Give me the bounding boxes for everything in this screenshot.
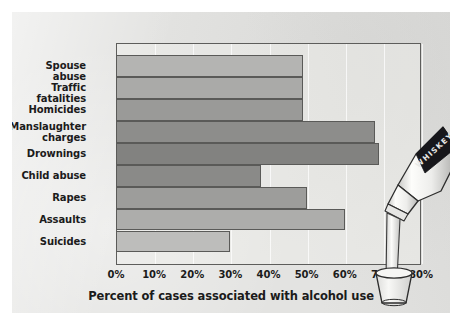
category-label: Assaults — [39, 214, 86, 225]
category-label: Homicides — [29, 104, 86, 115]
chart-figure: Spouse abuseTraffic fatalitiesHomicidesM… — [12, 12, 450, 313]
bar — [116, 165, 261, 187]
x-tick-label: 70% — [371, 269, 395, 280]
x-tick-label: 20% — [180, 269, 204, 280]
x-tick-label: 80% — [409, 269, 433, 280]
x-tick-label: 60% — [333, 269, 357, 280]
category-label: Rapes — [52, 192, 86, 203]
x-tick-label: 10% — [142, 269, 166, 280]
bar — [116, 143, 379, 165]
bar — [116, 209, 345, 231]
category-label: Traffic fatalities — [12, 82, 86, 104]
bars-group — [116, 43, 421, 265]
category-label: Suicides — [40, 236, 86, 247]
x-tick-label: 0% — [108, 269, 125, 280]
x-axis-title: Percent of cases associated with alcohol… — [12, 289, 450, 303]
bar — [116, 187, 307, 209]
category-label: Drownings — [27, 148, 86, 159]
category-label: Spouse abuse — [12, 60, 86, 82]
category-label: Child abuse — [21, 170, 86, 181]
x-tick-label: 50% — [295, 269, 319, 280]
bar — [116, 121, 375, 143]
bar — [116, 231, 230, 253]
bar — [116, 55, 303, 77]
category-label: Manslaughter charges — [12, 121, 86, 143]
x-tick-label: 40% — [257, 269, 281, 280]
gridline — [422, 44, 423, 264]
x-tick-label: 30% — [218, 269, 242, 280]
bar — [116, 99, 303, 121]
bar — [116, 77, 303, 99]
